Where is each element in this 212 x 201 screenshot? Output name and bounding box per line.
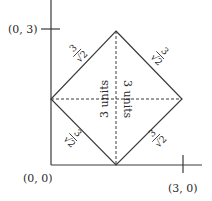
- diagram-canvas: (0, 3) (0, 0) (3, 0) 3 √2 3 √2 3 √2 3 √2…: [0, 0, 212, 201]
- x-tick-label: (3, 0): [168, 182, 198, 195]
- edge-label-bottom-left: 3 √2: [62, 125, 87, 150]
- edge-label-top-right: 3 √2: [149, 43, 174, 68]
- edge-label-top-left: 3 √2: [65, 40, 90, 65]
- origin-label: (0, 0): [23, 172, 53, 185]
- diagonal-label-left: 3 units: [98, 79, 111, 118]
- diagonal-label-right: 3 units: [121, 80, 134, 119]
- horizontal-diagonal-label: 3 units: [121, 80, 134, 119]
- y-tick-label: (0, 3): [8, 23, 38, 36]
- edge-label-bottom-right: 3 √2: [144, 125, 169, 150]
- vertical-diagonal-label: 3 units: [98, 79, 111, 118]
